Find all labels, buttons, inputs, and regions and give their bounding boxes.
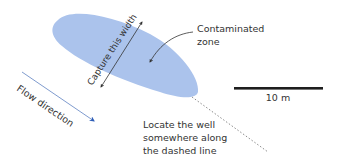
locate-well-label-line3: the dashed line xyxy=(143,145,217,156)
contaminated-zone-label-line1: Contaminated xyxy=(197,23,264,34)
scale-bar xyxy=(234,87,323,90)
contaminated-zone-label-line2: zone xyxy=(197,36,220,47)
scale-label: 10 m xyxy=(266,92,290,103)
contaminant-capture-diagram: Capture this width Contaminated zone Flo… xyxy=(0,0,338,165)
locate-well-label-line1: Locate the well xyxy=(143,119,215,130)
flow-direction-label: Flow direction xyxy=(15,83,76,129)
locate-well-label-line2: somewhere along xyxy=(143,132,227,143)
